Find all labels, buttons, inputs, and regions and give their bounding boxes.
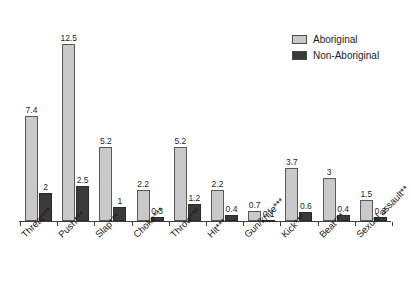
legend-item-non-aboriginal: Non-Aboriginal bbox=[292, 50, 379, 61]
bar-value-label: 7.4 bbox=[20, 105, 43, 115]
bar-value-label: 2.2 bbox=[206, 179, 229, 189]
x-axis-tick bbox=[20, 222, 21, 226]
bar-aboriginal-1 bbox=[62, 44, 75, 221]
category-label-5: Hit*** bbox=[205, 216, 229, 240]
legend-label-aboriginal: Aboriginal bbox=[313, 34, 357, 45]
x-axis-tick bbox=[392, 222, 393, 226]
category-label-7: Kick*** bbox=[279, 211, 307, 239]
x-axis-tick bbox=[132, 222, 133, 226]
bar-value-label: 0.6 bbox=[294, 201, 317, 211]
bar-value-label: 2.2 bbox=[132, 179, 155, 189]
x-axis-tick bbox=[280, 222, 281, 226]
x-axis-tick bbox=[94, 222, 95, 226]
bar-value-label: 12.5 bbox=[57, 33, 80, 43]
bar-non-aboriginal-5 bbox=[225, 215, 238, 221]
bar-aboriginal-0 bbox=[25, 116, 38, 221]
bar-value-label: 3 bbox=[318, 167, 341, 177]
legend-swatch-non-aboriginal bbox=[292, 51, 307, 60]
legend-swatch-aboriginal bbox=[292, 35, 307, 44]
bar-value-label: 1.2 bbox=[183, 193, 206, 203]
x-axis-tick bbox=[243, 222, 244, 226]
bar-value-label: 5.2 bbox=[94, 136, 117, 146]
bar-aboriginal-2 bbox=[99, 147, 112, 221]
x-axis-tick bbox=[206, 222, 207, 226]
bar-value-label: 1.5 bbox=[355, 189, 378, 199]
bar-value-label: 1 bbox=[108, 196, 131, 206]
legend-label-non-aboriginal: Non-Aboriginal bbox=[313, 50, 379, 61]
x-axis-tick bbox=[355, 222, 356, 226]
chart-legend: Aboriginal Non-Aboriginal bbox=[292, 34, 379, 61]
bar-value-label: 3.7 bbox=[280, 157, 303, 167]
bar-value-label: 2.5 bbox=[71, 175, 94, 185]
x-axis-tick bbox=[57, 222, 58, 226]
bar-value-label: 0.4 bbox=[220, 204, 243, 214]
legend-item-aboriginal: Aboriginal bbox=[292, 34, 379, 45]
x-axis-tick bbox=[318, 222, 319, 226]
bar-value-label: 2 bbox=[34, 182, 57, 192]
bar-aboriginal-4 bbox=[174, 147, 187, 221]
bar-value-label: 5.2 bbox=[169, 136, 192, 146]
x-axis-tick bbox=[169, 222, 170, 226]
